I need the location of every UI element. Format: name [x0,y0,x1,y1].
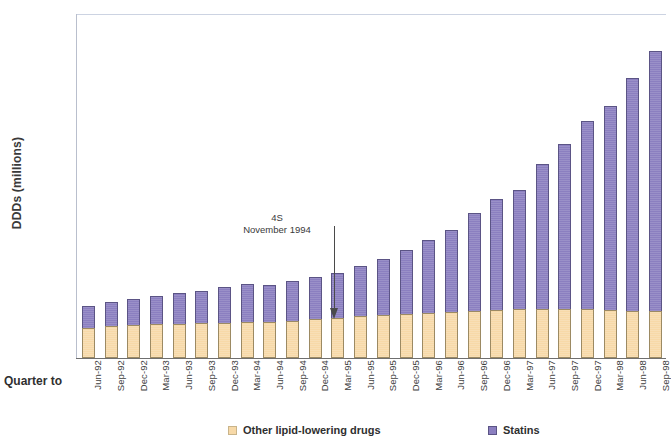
arrow-shaft [334,226,335,310]
x-axis-tick-label: Dec-92 [138,360,149,412]
bar-segment-other-lipid-lowering [173,324,186,358]
bar-column [286,281,299,358]
x-axis-tick-label: Dec-93 [229,360,240,412]
bar-segment-other-lipid-lowering [649,311,662,358]
x-axis-tick-label: Mar-93 [160,360,171,412]
bar-segment-statins [195,291,208,323]
x-axis-tick-label: Sep-96 [478,360,489,412]
bar-segment-other-lipid-lowering [604,310,617,358]
bar-segment-statins [105,302,118,327]
bar-segment-statins [400,250,413,314]
x-axis-tick-label: Dec-95 [410,360,421,412]
bar-segment-other-lipid-lowering [82,328,95,358]
legend-item: Other lipid-lowering drugs [228,424,381,436]
x-axis-tick-label: Mar-97 [524,360,535,412]
bar-column [604,106,617,358]
x-axis-tick-label: Sep-93 [206,360,217,412]
bar-segment-statins [241,284,254,322]
x-axis-tick-label: Mar-98 [614,360,625,412]
legend-swatch-icon [488,426,497,435]
bar-column [263,285,276,358]
x-axis-tick-labels: Jun-92Sep-92Dec-92Mar-93Jun-93Sep-93Dec-… [76,360,666,412]
bar-column [377,259,390,358]
bar-column [581,121,594,358]
legend-item: Statins [488,424,540,436]
x-axis-tick-label: Jun-96 [455,360,466,412]
bar-segment-other-lipid-lowering [558,309,571,358]
bar-column [195,291,208,358]
bar-segment-statins [445,230,458,312]
chart-legend: Other lipid-lowering drugsStatins [0,422,669,441]
bar-segment-statins [263,285,276,321]
bar-segment-other-lipid-lowering [490,310,503,358]
bar-segment-statins [150,296,163,324]
bar-segment-statins [82,306,95,327]
x-axis-tick-label: Jun-95 [365,360,376,412]
x-axis-tick-label: Jun-93 [183,360,194,412]
bars-layer [76,14,666,358]
bar-segment-other-lipid-lowering [331,318,344,358]
x-axis-tick-label: Dec-94 [319,360,330,412]
bar-segment-other-lipid-lowering [468,311,481,358]
bar-segment-other-lipid-lowering [309,319,322,358]
bar-segment-other-lipid-lowering [127,325,140,358]
bar-segment-statins [513,190,526,309]
bar-segment-other-lipid-lowering [263,322,276,358]
bar-column [150,296,163,358]
x-axis-tick-label: Jun-98 [637,360,648,412]
bar-segment-statins [173,293,186,324]
bar-column [513,190,526,358]
x-axis-caption: Quarter to [4,374,62,388]
bar-segment-statins [286,281,299,321]
bar-column [536,164,549,358]
bar-segment-other-lipid-lowering [400,314,413,358]
bar-segment-statins [127,299,140,325]
bar-segment-statins [218,287,231,322]
bar-column [445,230,458,358]
bar-segment-other-lipid-lowering [218,323,231,358]
bar-segment-statins [490,199,503,310]
bar-segment-other-lipid-lowering [105,326,118,358]
bar-column [468,213,481,358]
bar-segment-other-lipid-lowering [626,311,639,358]
y-axis-title: DDDs (millions) [10,98,24,268]
bar-column [649,51,662,358]
bar-segment-other-lipid-lowering [195,323,208,358]
bar-segment-other-lipid-lowering [581,309,594,358]
arrow-head [330,308,338,319]
x-axis-tick-label: Sep-92 [115,360,126,412]
bar-column [626,78,639,358]
x-axis-tick-label: Sep-97 [569,360,580,412]
bar-segment-other-lipid-lowering [445,312,458,358]
bar-segment-other-lipid-lowering [422,313,435,358]
plot-area [76,14,666,358]
bar-column [422,240,435,358]
bar-segment-other-lipid-lowering [377,315,390,358]
x-axis-tick-label: Mar-94 [251,360,262,412]
bar-column [173,293,186,358]
x-axis-tick-label: Jun-92 [92,360,103,412]
bar-column [309,277,322,358]
bar-segment-statins [581,121,594,310]
legend-swatch-icon [228,426,237,435]
bar-column [400,250,413,358]
bar-column [218,287,231,358]
bar-column [82,306,95,358]
legend-label: Other lipid-lowering drugs [243,424,381,436]
bar-column [127,299,140,358]
x-axis-line [76,358,666,359]
bar-segment-statins [649,51,662,311]
bar-segment-statins [536,164,549,308]
bar-column [354,266,367,358]
bar-segment-other-lipid-lowering [150,324,163,358]
legend-label: Statins [503,424,540,436]
bar-segment-statins [604,106,617,309]
bar-segment-statins [377,259,390,316]
x-axis-tick-label: Jun-97 [546,360,557,412]
bar-segment-other-lipid-lowering [241,322,254,358]
x-axis-tick-label: Dec-97 [592,360,603,412]
bar-column [558,144,571,358]
bar-segment-other-lipid-lowering [286,321,299,358]
bar-column [105,302,118,359]
